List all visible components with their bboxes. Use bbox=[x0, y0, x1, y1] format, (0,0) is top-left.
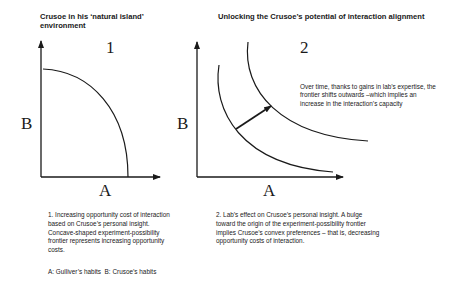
panel2-title: Unlocking the Crusoe’s potential of inte… bbox=[218, 12, 428, 21]
axis-legend: A: Gulliver’s habits B: Crusoe’s habits bbox=[48, 268, 208, 277]
panel1-title: Crusoe in his ‘natural island’ environme… bbox=[40, 12, 190, 31]
panel1-concave-frontier bbox=[43, 69, 128, 177]
panel2-x-axis-label: A bbox=[263, 181, 275, 201]
panel1-number: 1 bbox=[106, 38, 115, 58]
panel2-inner-frontier bbox=[218, 65, 333, 172]
panel1-axes bbox=[41, 41, 160, 177]
frontier-shift-annotation: Over time, thanks to gains in lab’s expe… bbox=[300, 83, 442, 108]
panel1-y-axis-label: B bbox=[21, 114, 32, 134]
frontier-shift-arrow bbox=[236, 106, 271, 129]
panel2-number: 2 bbox=[300, 38, 309, 58]
panel1-x-axis-label: A bbox=[99, 181, 111, 201]
panel2-caption: 2. Lab’s effect on Crusoe’s personal ins… bbox=[216, 211, 382, 246]
panel1-caption: 1. Increasing opportunity cost of intera… bbox=[48, 211, 176, 255]
panel2-y-axis-label: B bbox=[177, 114, 188, 134]
